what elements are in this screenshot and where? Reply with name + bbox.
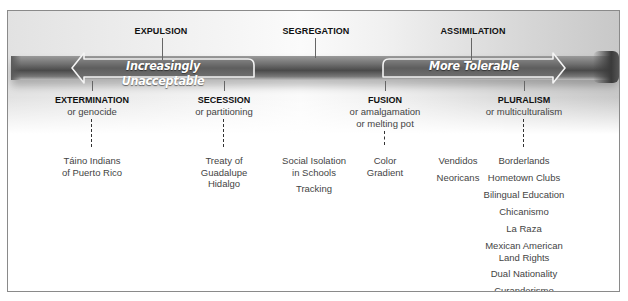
- example-line: Color: [350, 155, 420, 167]
- arrow-tolerable-label: More Tolerable: [394, 58, 554, 73]
- bar-left-edge: [11, 56, 21, 80]
- bar-right-edge: [593, 51, 619, 83]
- dashed-connector: [384, 131, 385, 145]
- strategy-pluralism: PLURALISM or multiculturalism: [464, 94, 584, 118]
- strategy-alt: or multiculturalism: [464, 106, 584, 118]
- tick-secession: [224, 81, 225, 91]
- label-assimilation: ASSIMILATION: [423, 26, 523, 36]
- examples-fusion: Color Gradient: [350, 155, 420, 183]
- examples-pluralism: Borderlands Hometown Clubs Bilingual Edu…: [474, 155, 574, 292]
- label-segregation: SEGREGATION: [266, 26, 366, 36]
- example-line: Treaty of: [174, 155, 274, 167]
- strategy-name: SECESSION: [174, 94, 274, 106]
- strategy-fusion: FUSION or amalgamation or melting pot: [330, 94, 440, 130]
- example-line: Gradient: [350, 167, 420, 179]
- example-line: of Puerto Rico: [42, 167, 142, 179]
- strategy-alt: or partitioning: [174, 106, 274, 118]
- example-line: in Schools: [264, 167, 364, 179]
- example-item: Treaty of Guadalupe Hidalgo: [174, 155, 274, 190]
- label-expulsion: EXPULSION: [116, 26, 206, 36]
- example-line: Guadalupe: [174, 167, 274, 179]
- strategy-name: PLURALISM: [464, 94, 584, 106]
- examples-extermination: Táino Indians of Puerto Rico: [42, 155, 142, 183]
- tick-fusion: [385, 81, 386, 91]
- strategy-alt: or amalgamation: [330, 106, 440, 118]
- example-item: Color Gradient: [350, 155, 420, 178]
- dashed-connector: [523, 119, 524, 147]
- arrow-unacceptable: Increasingly Unacceptable: [70, 49, 256, 87]
- examples-segregation: Social Isolation in Schools Tracking: [264, 155, 364, 200]
- tick-pluralism: [524, 81, 525, 91]
- example-item: Dual Nationality: [474, 268, 574, 280]
- example-line: Mexican American: [474, 240, 574, 252]
- example-item: Bilingual Education: [474, 189, 574, 201]
- examples-secession: Treaty of Guadalupe Hidalgo: [174, 155, 274, 195]
- strategy-name: FUSION: [330, 94, 440, 106]
- example-line: Táino Indians: [42, 155, 142, 167]
- example-item: Borderlands: [474, 155, 574, 167]
- tick-extermination: [92, 81, 93, 91]
- strategy-extermination: EXTERMINATION or genocide: [42, 94, 142, 118]
- arrow-tolerable: More Tolerable: [381, 49, 567, 87]
- example-item: Chicanismo: [474, 206, 574, 218]
- example-item: Curanderismo: [474, 285, 574, 292]
- dashed-connector: [223, 119, 224, 147]
- strategy-alt: or genocide: [42, 106, 142, 118]
- strategy-name: EXTERMINATION: [42, 94, 142, 106]
- example-item: Tracking: [264, 183, 364, 195]
- tick-expulsion: [162, 38, 163, 60]
- diagram-frame: Increasingly Unacceptable More Tolerable…: [7, 10, 620, 292]
- example-item: Mexican American Land Rights: [474, 240, 574, 264]
- example-item: La Raza: [474, 223, 574, 235]
- example-line: Land Rights: [474, 252, 574, 264]
- arrow-unacceptable-label: Increasingly Unacceptable: [83, 58, 243, 88]
- strategy-secession: SECESSION or partitioning: [174, 94, 274, 118]
- strategy-alt: or melting pot: [330, 118, 440, 130]
- example-line: Social Isolation: [264, 155, 364, 167]
- tick-assimilation: [471, 38, 472, 60]
- example-item: Hometown Clubs: [474, 172, 574, 184]
- example-item: Táino Indians of Puerto Rico: [42, 155, 142, 178]
- tick-segregation: [315, 38, 316, 58]
- example-item: Social Isolation in Schools: [264, 155, 364, 178]
- example-line: Hidalgo: [174, 178, 274, 190]
- dashed-connector: [91, 119, 92, 147]
